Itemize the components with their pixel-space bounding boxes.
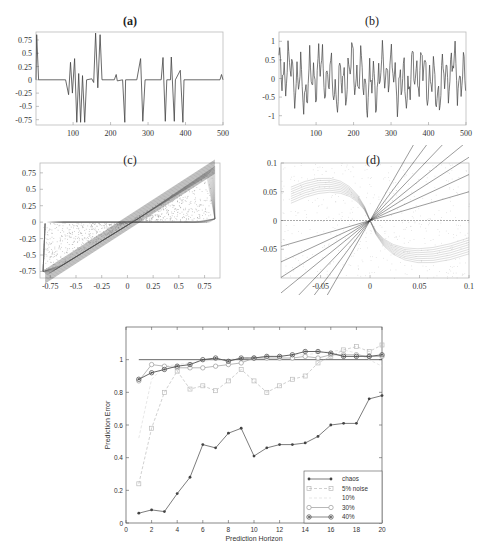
x-tick-label: -0.75 — [42, 282, 59, 291]
y-tick-label: 0.25 — [22, 202, 36, 211]
y-tick-label: 0.5 — [22, 49, 32, 58]
panel-b: (b) 10020030040050010.50-0.5-1 — [243, 0, 486, 145]
y-tick-label: 0.6 — [114, 422, 123, 429]
x-axis-label: Prediction Horizon — [225, 535, 282, 542]
x-tick-label: 16 — [327, 526, 335, 533]
legend-entry: 10% — [342, 494, 355, 501]
x-tick-label: 4 — [175, 526, 179, 533]
x-tick-label: 0.05 — [413, 282, 427, 291]
x-tick-label: 500 — [460, 129, 472, 138]
y-tick-label: 0 — [28, 76, 32, 85]
y-tick-label: 0.5 — [26, 185, 36, 194]
y-tick-label: -0.75 — [15, 116, 32, 125]
series-5-noise — [137, 343, 384, 486]
series-line — [279, 40, 466, 117]
x-tick-label: 300 — [142, 129, 154, 138]
prediction-error-plot: 0246810121416182000.20.40.60.81Predictio… — [100, 295, 390, 548]
y-tick-label: 1 — [119, 356, 123, 363]
y-tick-label: 0 — [273, 217, 277, 226]
legend-entry: 30% — [342, 504, 355, 511]
x-tick-label: 2 — [150, 526, 154, 533]
y-tick-label: 0.5 — [265, 56, 275, 65]
y-tick-label: 0.75 — [22, 169, 36, 178]
y-tick-label: 1 — [271, 37, 275, 46]
y-axis-label: Prediction Error — [104, 400, 111, 449]
y-tick-label: 0.4 — [114, 454, 123, 461]
x-tick-label: 0 — [125, 282, 129, 291]
phase-points — [43, 160, 215, 283]
series-line — [36, 33, 223, 122]
x-tick-label: 100 — [67, 129, 79, 138]
y-tick-label: 0.75 — [18, 36, 32, 45]
x-tick-label: 0.25 — [146, 282, 160, 291]
x-tick-label: 200 — [105, 129, 117, 138]
x-tick-label: 14 — [302, 526, 310, 533]
panel-a-title: (a) — [115, 14, 145, 29]
y-tick-label: -0.5 — [262, 93, 275, 102]
x-tick-label: 400 — [423, 129, 435, 138]
y-tick-label: 0 — [271, 75, 275, 84]
x-tick-label: 12 — [276, 526, 284, 533]
panel-c-title: (c) — [115, 153, 145, 168]
x-tick-label: 400 — [180, 129, 192, 138]
y-tick-label: -1 — [268, 112, 275, 121]
plot-frame — [36, 32, 223, 125]
x-tick-label: 0 — [368, 282, 372, 291]
y-tick-label: 0.2 — [114, 487, 123, 494]
x-tick-label: 20 — [378, 526, 386, 533]
y-tick-label: -0.5 — [19, 102, 32, 111]
panel-d-title: (d) — [358, 153, 388, 168]
x-tick-label: 500 — [217, 129, 229, 138]
x-tick-label: 8 — [227, 526, 231, 533]
y-tick-label: 0 — [32, 218, 36, 227]
legend: chaos5% noise10%30%40% — [304, 471, 382, 523]
x-tick-label: 300 — [385, 129, 397, 138]
legend-entry: 40% — [342, 513, 355, 520]
y-tick-label: -0.5 — [23, 251, 36, 260]
x-tick-label: 6 — [201, 526, 205, 533]
x-tick-label: -0.5 — [70, 282, 83, 291]
x-tick-label: 100 — [310, 129, 322, 138]
panel-c: (c) -0.75-0.5-0.2500.250.50.750.750.50.2… — [0, 145, 243, 295]
y-tick-label: -0.25 — [19, 235, 36, 244]
y-tick-label: -0.25 — [15, 89, 32, 98]
x-tick-label: 200 — [348, 129, 360, 138]
panel-a: (a) 1002003004005000.750.50.250-0.25-0.5… — [0, 0, 243, 145]
y-tick-label: -0.75 — [19, 267, 36, 276]
panel-b-title: (b) — [357, 14, 387, 29]
x-tick-label: 0.75 — [198, 282, 212, 291]
x-tick-label: 18 — [353, 526, 361, 533]
y-tick-label: 0.8 — [114, 389, 123, 396]
y-tick-label: 0.05 — [263, 188, 277, 197]
y-tick-label: 0.25 — [18, 63, 32, 72]
x-tick-label: 10 — [250, 526, 258, 533]
legend-entry: 5% noise — [342, 485, 368, 492]
panel-d: (d) -0.0500.050.10.10.050-0.05 — [243, 145, 486, 295]
y-tick-label: 0 — [119, 520, 123, 527]
y-tick-label: 0.1 — [267, 159, 277, 168]
x-tick-label: -0.25 — [93, 282, 110, 291]
legend-entry: chaos — [342, 475, 359, 482]
y-tick-label: -0.05 — [260, 245, 277, 254]
x-tick-label: 0.1 — [464, 282, 474, 291]
prediction-error-chart: 0246810121416182000.20.40.60.81Predictio… — [100, 295, 390, 548]
x-tick-label: 0 — [124, 526, 128, 533]
x-tick-label: 0.5 — [174, 282, 184, 291]
series-10- — [139, 350, 382, 438]
